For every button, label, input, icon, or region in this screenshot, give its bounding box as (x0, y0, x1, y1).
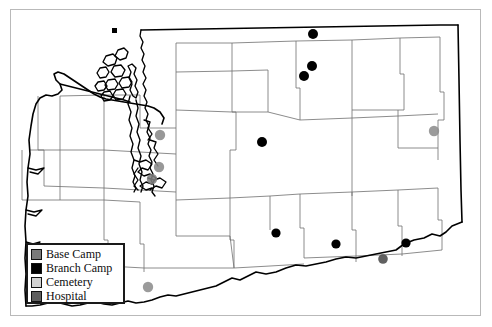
marker-base-camp-puget-2 (154, 162, 164, 172)
legend-label-branch-camp: Branch Camp (46, 262, 112, 274)
marker-base-camp-east (429, 126, 439, 136)
facility-markers (143, 29, 439, 292)
legend-swatch-cemetery (31, 277, 42, 288)
marker-branch-camp-central (257, 137, 267, 147)
marker-branch-camp-south-2 (331, 239, 340, 248)
county-boundaries (22, 37, 444, 272)
legend-swatch-hospital (31, 291, 42, 302)
legend-label-base-camp: Base Camp (46, 248, 101, 260)
marker-square-north (112, 28, 117, 33)
marker-branch-camp-south-1 (271, 228, 280, 237)
marker-branch-camp-north-3 (299, 71, 309, 81)
legend-item-hospital: Hospital (31, 289, 120, 303)
legend-swatch-branch-camp (31, 263, 42, 274)
legend-label-cemetery: Cemetery (46, 276, 93, 288)
legend-swatch-base-camp (31, 249, 42, 260)
marker-base-camp-puget-1 (155, 130, 165, 140)
legend-item-branch-camp: Branch Camp (31, 261, 120, 275)
legend-item-cemetery: Cemetery (31, 275, 120, 289)
map-screenshot: Base Camp Branch Camp Cemetery Hospital (0, 0, 492, 327)
puget-sound-coastline (26, 30, 166, 248)
marker-hospital-southeast (378, 254, 388, 264)
map-legend: Base Camp Branch Camp Cemetery Hospital (26, 243, 125, 304)
marker-hospital-puget (147, 174, 157, 184)
legend-label-hospital: Hospital (46, 290, 87, 302)
legend-item-base-camp: Base Camp (31, 247, 120, 261)
marker-branch-camp-north-2 (307, 61, 317, 71)
marker-branch-camp-north-1 (308, 29, 318, 39)
marker-base-camp-southwest (143, 282, 153, 292)
marker-branch-camp-southeast (401, 238, 410, 247)
